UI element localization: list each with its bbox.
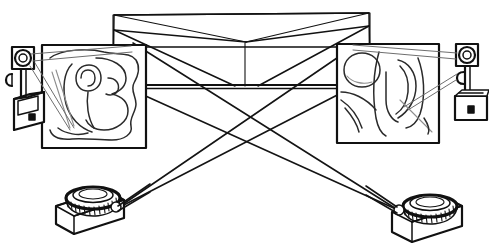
left-camera-lens-inner [19, 54, 27, 62]
sketch-canvas: Two-projector cross-projection setup ske… [0, 0, 489, 251]
left-projector-lens-aperture [79, 189, 107, 199]
left-artwork-panel[interactable] [42, 45, 146, 148]
right-artwork-panel[interactable] [337, 44, 439, 143]
right-camera-lens-inner [463, 51, 471, 59]
right-projector-lens-aperture [416, 197, 444, 207]
right-camera-button-icon [468, 106, 474, 113]
left-camera-button-icon [29, 114, 35, 120]
diagram-svg [0, 0, 489, 251]
